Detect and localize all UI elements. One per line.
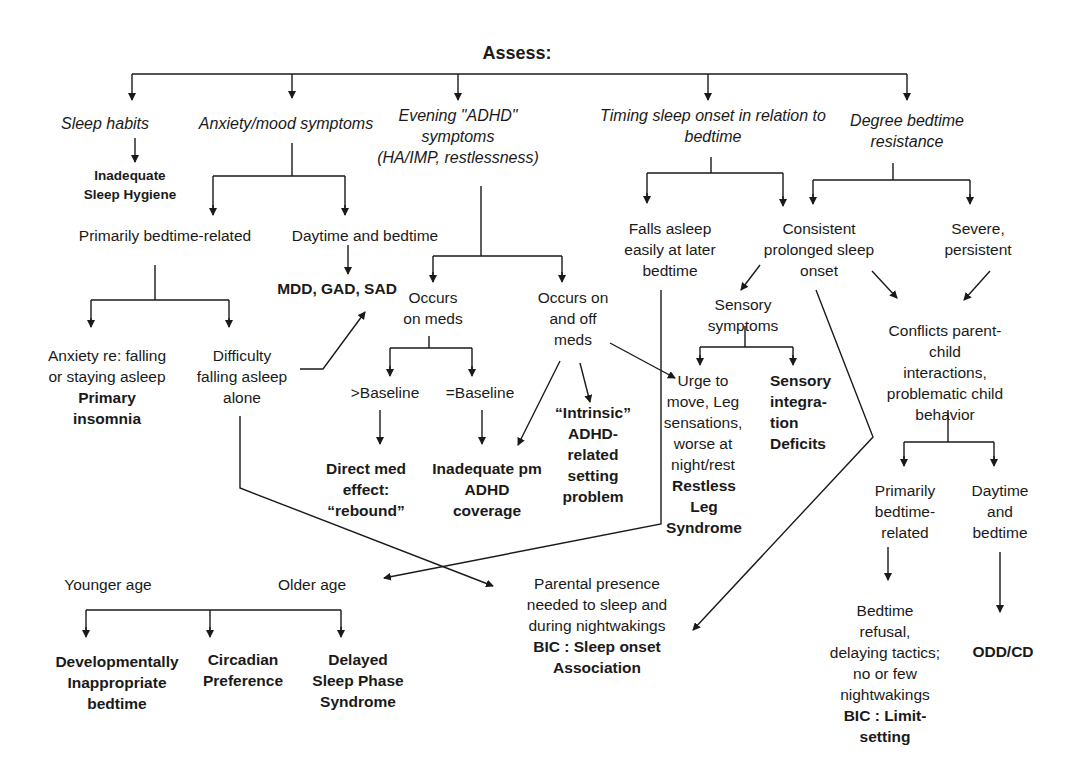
node-younger-age: Younger age [64, 574, 151, 595]
edge-consistent-sensory [741, 265, 760, 290]
node-delayed-phase: Delayed Sleep Phase Syndrome [312, 649, 403, 712]
node-intrinsic-adhd: “Intrinsic” ADHD- related setting proble… [555, 402, 631, 507]
node-primary-insomnia: Primary insomnia [73, 387, 141, 429]
node-bic-limit: BIC : Limit- setting [844, 705, 927, 747]
node-circadian: Circadian Preference [203, 649, 283, 691]
edge-severe-conflicts [964, 271, 990, 300]
node-direct-med: Direct med effect: “rebound” [326, 458, 406, 521]
edge-evening-split [433, 186, 562, 280]
node-occurs-on-off: Occurs on and off meds [538, 287, 609, 350]
node-sensory-integration: Sensory integra- tion Deficits [770, 370, 831, 454]
edge-anxiety-split [213, 143, 345, 214]
edge-onoff-inadequate [518, 361, 560, 445]
edge-timing-split [647, 157, 783, 203]
node-sensory-symptoms: Sensory symptoms [708, 294, 779, 336]
edge-difficulty-mdd [300, 312, 365, 369]
node-primarily-bedtime: Primarily bedtime-related [79, 225, 251, 246]
edge-consistent-conflicts [872, 271, 897, 298]
node-gt-baseline: >Baseline [351, 382, 420, 403]
node-severe-persistent: Severe, persistent [944, 218, 1011, 260]
node-consistent-prolonged: Consistent prolonged sleep onset [764, 218, 874, 281]
assess-title: Assess: [482, 43, 551, 64]
node-evening-adhd: Evening "ADHD" symptoms (HA/IMP, restles… [377, 105, 539, 168]
node-urge-to-move: Urge to move, Leg sensations, worse at n… [664, 370, 742, 475]
node-mdd-gad-sad: MDD, GAD, SAD [277, 278, 397, 299]
node-older-age: Older age [278, 574, 346, 595]
node-inadequate-hygiene: Inadequate Sleep Hygiene [84, 166, 176, 204]
node-odd-cd: ODD/CD [972, 641, 1033, 662]
node-occurs-on-meds: Occurs on meds [403, 287, 462, 329]
node-parental-presence: Parental presence needed to sleep and du… [527, 573, 667, 636]
edge-onoff-intrinsic [580, 363, 590, 402]
node-falls-asleep-later: Falls asleep easily at later bedtime [624, 218, 715, 281]
node-restless-leg: Restless Leg Syndrome [666, 475, 742, 538]
node-inadequate-pm: Inadequate pm ADHD coverage [432, 458, 541, 521]
node-anxiety-mood: Anxiety/mood symptoms [199, 113, 373, 134]
node-degree-resistance: Degree bedtime resistance [850, 110, 964, 152]
node-developmentally: Developmentally Inappropriate bedtime [55, 651, 178, 714]
node-anxiety-falling: Anxiety re: falling or staying asleep [48, 345, 166, 387]
edge-age-split [86, 610, 341, 634]
edge-primary-split [91, 265, 229, 325]
edge-onmeds-split [390, 336, 472, 373]
node-daytime-bedtime-2: Daytime and bedtime [972, 480, 1029, 543]
node-conflicts: Conflicts parent-child interactions, pro… [882, 320, 1009, 425]
node-eq-baseline: =Baseline [446, 382, 515, 403]
node-primarily-bedtime-2: Primarily bedtime- related [875, 480, 935, 543]
node-daytime-bedtime: Daytime and bedtime [292, 225, 438, 246]
node-timing-onset: Timing sleep onset in relation to bedtim… [600, 105, 826, 147]
node-difficulty-alone: Difficulty falling asleep alone [197, 345, 287, 408]
node-sleep-habits: Sleep habits [61, 113, 149, 134]
node-bic-sleep-onset: BIC : Sleep onset Association [533, 636, 660, 678]
node-bedtime-refusal: Bedtime refusal, delaying tactics; no or… [830, 600, 940, 705]
edge-degree-split [813, 163, 970, 200]
